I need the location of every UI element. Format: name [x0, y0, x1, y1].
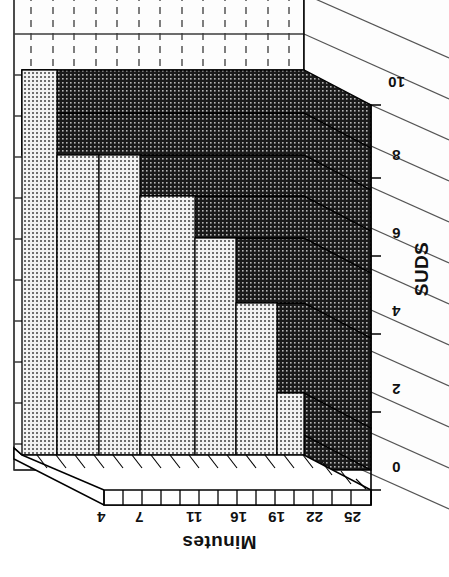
- minutes-axis-title: Minutes: [182, 531, 257, 553]
- minutes-tick-16: 16: [230, 509, 247, 526]
- suds-tick-4: 4: [392, 303, 401, 320]
- suds-tick-6: 6: [392, 225, 401, 242]
- suds-tick-0: 0: [392, 459, 401, 476]
- minutes-tick-4: 4: [97, 509, 106, 526]
- minutes-tick-7: 7: [135, 509, 144, 526]
- bar-chart-3d: [0, 0, 449, 577]
- suds-tick-2: 2: [392, 381, 401, 398]
- minutes-tick-25: 25: [344, 509, 361, 526]
- minutes-tick-11: 11: [186, 509, 202, 526]
- minutes-tick-19: 19: [268, 509, 285, 526]
- suds-axis-title: SUDS: [411, 242, 433, 296]
- suds-tick-8: 8: [392, 147, 401, 164]
- chart-figure: 4 7 11 16 19 22 25 Minutes 0 2 4 6 8 10 …: [0, 0, 449, 577]
- suds-tick-10: 10: [388, 74, 405, 91]
- minutes-tick-22: 22: [306, 509, 323, 526]
